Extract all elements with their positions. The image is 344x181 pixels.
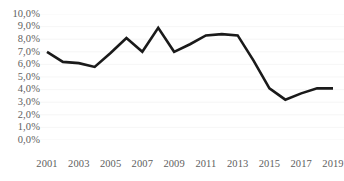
line-chart: 10,0%9,0%8,0%7,0%6,0%5,0%4,0%3,0%2,0%1,0…	[0, 0, 344, 181]
x-axis-tick-label: 2011	[189, 158, 223, 169]
x-axis-tick-label: 2015	[252, 158, 286, 169]
x-axis-tick-label: 2007	[125, 158, 159, 169]
x-axis-tick-label: 2003	[62, 158, 96, 169]
x-axis-tick-label: 2017	[284, 158, 318, 169]
x-axis-tick-label: 2009	[157, 158, 191, 169]
x-axis-tick-label: 2001	[30, 158, 64, 169]
x-axis-tick-label: 2013	[221, 158, 255, 169]
x-axis: 2001200320052007200920112013201520172019	[0, 0, 344, 181]
x-axis-tick-label: 2019	[316, 158, 344, 169]
x-axis-tick-label: 2005	[94, 158, 128, 169]
